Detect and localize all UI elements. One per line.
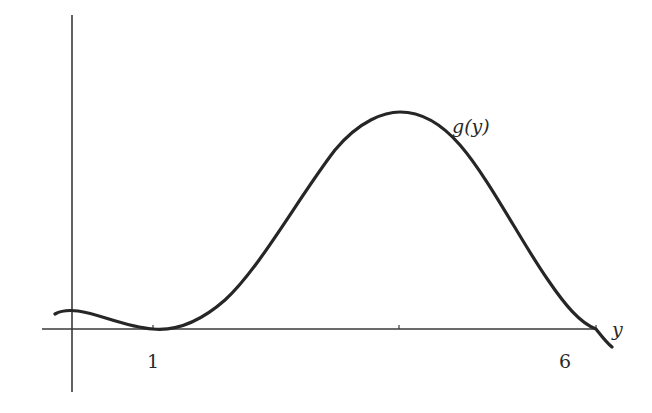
- curve-label: g(y): [452, 117, 490, 136]
- x-axis-label: y: [612, 320, 623, 339]
- x-tick-label-1: 1: [147, 352, 159, 371]
- x-tick-label-6: 6: [559, 352, 571, 371]
- chart-plot-area: [0, 0, 652, 413]
- curve-g-of-y: [55, 112, 612, 347]
